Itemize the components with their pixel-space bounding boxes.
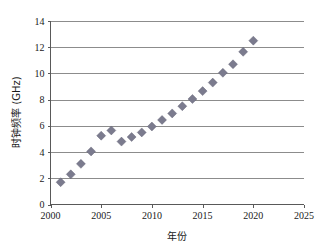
y-tick-label-4: 4 — [40, 147, 45, 158]
x-tick-label-2010: 2010 — [142, 210, 162, 221]
y-tick-label-2: 2 — [40, 173, 45, 184]
clock-frequency-scatter-chart: 200020052010201520202025 02468101214 年份 … — [0, 0, 334, 248]
y-axis-title: 时钟频率 (GHz) — [10, 76, 22, 148]
y-tick-label-14: 14 — [35, 16, 45, 27]
y-tick-label-8: 8 — [40, 94, 45, 105]
x-tick-label-2025: 2025 — [294, 210, 314, 221]
x-tick-label-2000: 2000 — [41, 210, 61, 221]
x-tick-label-2015: 2015 — [193, 210, 213, 221]
chart-container: 200020052010201520202025 02468101214 年份 … — [0, 0, 334, 248]
x-axis-title: 年份 — [167, 230, 187, 242]
y-tick-label-10: 10 — [35, 68, 45, 79]
y-tick-label-12: 12 — [35, 42, 45, 53]
y-tick-label-0: 0 — [40, 199, 45, 210]
y-tick-label-6: 6 — [40, 120, 45, 131]
x-tick-label-2020: 2020 — [243, 210, 263, 221]
x-tick-label-2005: 2005 — [91, 210, 111, 221]
